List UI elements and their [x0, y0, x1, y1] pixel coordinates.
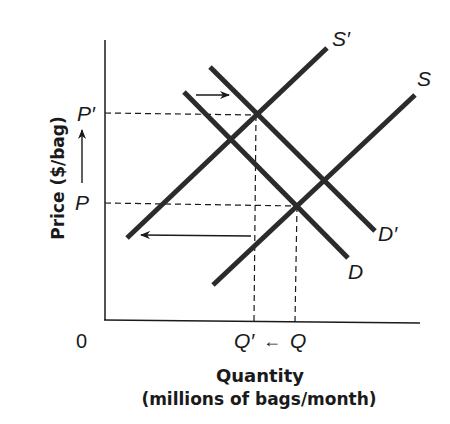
label-s-prime: S′ — [332, 27, 351, 50]
supply-shift-arrow — [141, 235, 251, 236]
demand-curve-d-prime — [210, 67, 375, 231]
x-axis-title: Quantity — [216, 365, 304, 386]
label-p: P — [75, 191, 89, 214]
label-origin: 0 — [76, 330, 87, 352]
label-s: S — [417, 67, 431, 90]
x-axis-subtitle: (millions of bags/month) — [141, 389, 376, 409]
y-axis-title: Price ($/bag) — [48, 116, 68, 240]
label-q: Q — [290, 329, 306, 352]
p-guide — [105, 203, 297, 206]
quantity-fall-arrow: ← — [263, 331, 281, 351]
label-p-prime: P′ — [77, 102, 96, 125]
supply-demand-diagram: S′ S D′ D P′ P 0 Q′ ← Q Price ($/bag) Qu… — [0, 0, 450, 424]
q-guide — [295, 206, 297, 322]
supply-curve-s — [213, 95, 415, 285]
q-prime-guide — [254, 115, 256, 321]
label-d-prime: D′ — [378, 222, 398, 245]
x-axis — [104, 320, 420, 323]
label-q-prime: Q′ — [234, 329, 255, 352]
p-prime-guide — [105, 113, 257, 115]
label-d: D — [348, 260, 363, 283]
